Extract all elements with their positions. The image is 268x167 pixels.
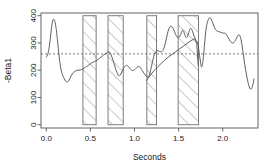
y-tick-label: 400	[30, 9, 39, 23]
shaded-interval-1	[83, 16, 96, 125]
y-tick-label: 0	[30, 122, 39, 127]
shaded-interval-3	[147, 16, 157, 125]
y-axis-title: -Beta1	[3, 58, 13, 83]
x-tick-label: 1.0	[129, 134, 141, 143]
x-tick-label: 0.0	[41, 134, 53, 143]
x-tick-label: 2.0	[217, 134, 229, 143]
x-tick-label: 1.5	[173, 134, 185, 143]
y-tick-label: 100	[30, 90, 39, 104]
y-axis-group: 0100200300400	[30, 9, 42, 127]
x-tick-label: 0.5	[85, 134, 97, 143]
y-tick-label: 300	[30, 36, 39, 50]
y-tick-label: 200	[30, 63, 39, 77]
x-axis-title: Seconds	[133, 152, 166, 162]
chart-canvas: 0.00.51.01.52.0 0100200300400 Seconds -B…	[0, 0, 268, 167]
x-axis-group: 0.00.51.01.52.0	[41, 128, 229, 143]
chart-figure: 0.00.51.01.52.0 0100200300400 Seconds -B…	[0, 0, 268, 167]
